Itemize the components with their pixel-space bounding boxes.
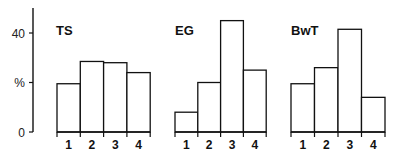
x-tick-label: 4 bbox=[135, 138, 142, 152]
y-tick-label: % bbox=[14, 76, 25, 90]
panel-ts: TS1234 bbox=[56, 23, 150, 152]
y-tick-label: 40 bbox=[12, 27, 26, 41]
panel-bwt: BwT1234 bbox=[291, 23, 385, 152]
bar bbox=[243, 70, 266, 132]
bar bbox=[198, 83, 221, 133]
x-tick-label: 3 bbox=[346, 138, 353, 152]
x-tick-label: 3 bbox=[112, 138, 119, 152]
x-tick-label: 2 bbox=[323, 138, 330, 152]
panel-eg: EG1234 bbox=[175, 21, 266, 152]
bar bbox=[57, 84, 80, 132]
bar bbox=[221, 21, 244, 132]
x-tick-label: 1 bbox=[183, 138, 190, 152]
bar bbox=[175, 112, 198, 132]
x-tick-label: 1 bbox=[65, 138, 72, 152]
bar bbox=[291, 84, 315, 132]
x-tick-label: 2 bbox=[206, 138, 213, 152]
histogram-chart: 0%40 TS1234EG1234BwT1234 bbox=[0, 0, 394, 154]
x-tick-label: 4 bbox=[370, 138, 377, 152]
bar bbox=[338, 29, 362, 132]
panel-title: TS bbox=[56, 23, 73, 38]
y-axis: 0%40 bbox=[12, 8, 33, 140]
y-tick-label: 0 bbox=[18, 126, 25, 140]
x-tick-label: 4 bbox=[251, 138, 258, 152]
panel-title: BwT bbox=[291, 23, 319, 38]
bar bbox=[104, 63, 127, 132]
bar bbox=[315, 68, 339, 132]
bar bbox=[362, 97, 386, 132]
panel-title: EG bbox=[175, 23, 194, 38]
x-tick-label: 3 bbox=[229, 138, 236, 152]
chart-panels: TS1234EG1234BwT1234 bbox=[56, 21, 385, 152]
bar bbox=[127, 73, 150, 132]
x-tick-label: 1 bbox=[299, 138, 306, 152]
x-tick-label: 2 bbox=[89, 138, 96, 152]
bar bbox=[80, 61, 103, 132]
